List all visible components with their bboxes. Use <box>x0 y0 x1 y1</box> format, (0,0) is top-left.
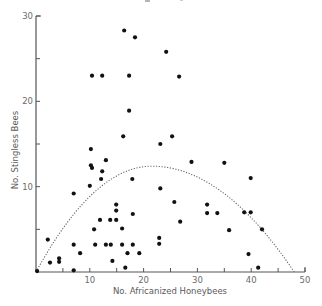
data-point <box>123 266 127 270</box>
data-point <box>57 260 61 264</box>
data-point <box>99 177 103 181</box>
y-tick-label: 10 <box>22 182 33 192</box>
data-point <box>158 142 162 146</box>
data-point <box>178 220 182 224</box>
scatter-chart: 1020301020304050 No. Africanized Honeybe… <box>0 0 322 306</box>
data-point <box>120 226 124 230</box>
data-point <box>205 203 209 207</box>
data-point <box>260 227 264 231</box>
data-point <box>222 161 226 165</box>
y-tick-label: 20 <box>22 96 33 106</box>
data-point <box>98 218 102 222</box>
data-point <box>122 28 126 32</box>
data-point <box>133 35 137 39</box>
data-point <box>125 251 129 255</box>
x-tick-label: 40 <box>246 275 257 285</box>
data-point <box>114 218 118 222</box>
data-point <box>131 212 135 216</box>
title-fragment-mark <box>145 0 150 2</box>
y-tick-label: 30 <box>22 11 33 21</box>
x-axis-label: No. Africanized Honeybees <box>113 286 228 296</box>
data-point <box>157 236 161 240</box>
data-point <box>164 50 168 54</box>
data-point <box>46 238 50 242</box>
data-point <box>72 268 76 272</box>
data-point <box>92 227 96 231</box>
data-point <box>137 251 141 255</box>
data-point <box>48 261 52 265</box>
data-point <box>127 74 131 78</box>
data-point <box>177 75 181 79</box>
data-point <box>249 176 253 180</box>
data-point <box>93 243 97 247</box>
data-point <box>256 266 260 270</box>
x-tick-label: 10 <box>84 275 95 285</box>
x-tick-label: 50 <box>300 275 311 285</box>
data-point <box>104 158 108 162</box>
data-point <box>108 218 112 222</box>
data-point <box>127 109 131 113</box>
fit-curve-line <box>36 166 294 272</box>
x-tick-label: 20 <box>138 275 149 285</box>
data-point <box>89 147 93 151</box>
title-fragment-mark <box>180 0 183 1</box>
data-point <box>131 243 135 247</box>
y-axis-label: No. Stingless Bees <box>10 110 20 189</box>
fit-curve <box>36 166 294 272</box>
data-point <box>130 177 134 181</box>
data-point <box>100 169 104 173</box>
data-point <box>114 209 118 213</box>
data-point <box>72 191 76 195</box>
data-point <box>242 210 246 214</box>
data-point <box>114 203 118 207</box>
data-point <box>90 166 94 170</box>
data-point <box>78 251 82 255</box>
data-point <box>172 200 176 204</box>
data-point <box>104 243 108 247</box>
data-point <box>90 74 94 78</box>
data-point <box>249 210 253 214</box>
data-point <box>170 134 174 138</box>
data-point <box>88 184 92 188</box>
data-point <box>121 134 125 138</box>
chart-title-fragment <box>145 0 183 2</box>
data-point <box>215 211 219 215</box>
data-point <box>158 186 162 190</box>
data-point <box>205 211 209 215</box>
data-point <box>72 243 76 247</box>
data-points <box>35 28 264 273</box>
data-point <box>110 259 114 263</box>
data-point <box>227 228 231 232</box>
data-point <box>120 243 124 247</box>
x-tick-label: 30 <box>192 275 203 285</box>
data-point <box>157 242 161 246</box>
data-point <box>189 160 193 164</box>
data-point <box>100 74 104 78</box>
data-point <box>109 243 113 247</box>
data-point <box>246 252 250 256</box>
data-point <box>35 269 39 273</box>
